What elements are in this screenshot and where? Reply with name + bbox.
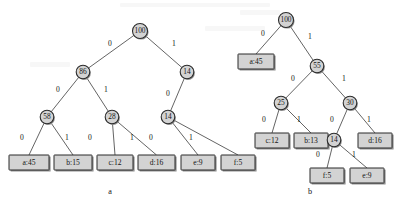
edge-b-root-to-b-leaf-a [256,26,281,54]
tree-canvas: 01010010101a:45b:15c:12d:16e:9f:51008614… [0,0,395,204]
a-n14b-label: 14 [164,112,172,121]
edge-bit-label-b-n25-b-leaf-c: 0 [262,115,266,124]
edge-bit-label-a-n58-a-leaf-a: 0 [20,133,24,142]
edge-a-n14b-to-a-leaf-e [172,122,198,155]
edge-a-n14b-to-a-leaf-f [174,120,238,155]
edge-bit-label-b-n30-b-leaf-d: 1 [367,115,371,124]
edge-bit-label-a-n14b-a-leaf-e: 0 [149,133,153,142]
b-n14-label: 14 [330,135,338,144]
edge-bit-label-b-n55-b-n25: 0 [291,74,295,83]
edge-bit-label-b-n14-b-leaf-f: 0 [316,150,320,159]
tree-a: 01010010101a:45b:15c:12d:16e:9f:51008614… [9,24,257,196]
b-leaf-b-label: b:13 [304,136,318,145]
edge-bit-label-b-n30-b-n14: 0 [330,115,334,124]
edge-bit-label-a-root-a-n14r: 1 [172,39,176,48]
edge-a-n14r-to-a-n14b [171,78,185,110]
edge-a-root-to-a-n14r [146,36,182,68]
a-leaf-c-label: c:12 [108,158,121,167]
a-n14r-label: 14 [183,67,191,76]
tree-b-caption: b [308,187,312,196]
tree-a-caption: a [108,187,112,196]
b-leaf-e-label: e:9 [362,171,371,180]
tree-a-edges: 01010010101 [20,35,238,155]
edge-bit-label-a-n28-a-leaf-c: 0 [88,133,92,142]
edge-a-n28-to-a-leaf-c [113,124,115,155]
huffman-tree-figure: 01010010101a:45b:15c:12d:16e:9f:51008614… [0,0,395,204]
edge-bit-label-b-root-b-n55: 1 [308,32,312,41]
edge-b-n30-to-b-leaf-d [354,108,375,133]
edge-bit-label-a-n58-a-leaf-b: 1 [65,133,69,142]
a-n58-label: 58 [43,112,51,121]
edge-a-n86-to-a-n28 [87,78,109,112]
edge-b-n30-to-b-n14 [337,109,348,134]
b-root-label: 100 [280,15,291,24]
edge-a-n58-to-a-leaf-a [29,123,44,155]
b-n55-label: 55 [313,61,321,70]
a-leaf-a-label: a:45 [22,158,35,167]
tree-b: 0101010101a:45c:12b:13d:16f:5e:910055253… [238,13,394,196]
a-leaf-b-label: b:15 [66,158,80,167]
edge-bit-label-b-n55-b-n30: 1 [342,74,346,83]
edge-bit-label-a-root-a-n86: 0 [108,39,112,48]
b-leaf-a-label: a:45 [249,57,262,66]
tree-a-leaves: a:45b:15c:12d:16e:9f:5 [9,155,257,172]
edge-bit-label-a-n86-a-n28: 1 [104,85,108,94]
edge-a-n58-to-a-leaf-b [51,123,73,155]
b-leaf-f-label: f:5 [323,171,332,180]
a-leaf-e-label: e:9 [193,158,202,167]
edge-bit-label-a-n14r-a-n14b: 0 [166,89,170,98]
edge-bit-label-a-n28-a-leaf-d: 1 [130,133,134,142]
edge-bit-label-a-n86-a-n58: 0 [56,85,60,94]
edge-b-n14-to-b-leaf-f [327,147,332,168]
a-leaf-d-label: d:16 [150,158,164,167]
b-n25-label: 25 [277,98,285,107]
edge-bit-label-b-n14-b-leaf-e: 1 [352,150,356,159]
a-n28-label: 28 [108,112,116,121]
a-n86-label: 86 [79,67,87,76]
edge-b-n25-to-b-leaf-c [272,110,279,133]
edge-bit-label-a-n14b-a-leaf-f: 1 [189,133,193,142]
b-n30-label: 30 [346,98,354,107]
b-leaf-d-label: d:16 [368,136,382,145]
edge-b-n55-to-b-n25 [286,71,313,98]
b-leaf-c-label: c:12 [265,136,278,145]
edge-bit-label-b-root-b-leaf-a: 0 [261,29,265,38]
edge-bit-label-b-n25-b-leaf-b: 1 [297,115,301,124]
a-leaf-f-label: f:5 [234,158,243,167]
a-root-label: 100 [134,26,145,35]
edge-a-n86-to-a-n58 [51,77,79,111]
